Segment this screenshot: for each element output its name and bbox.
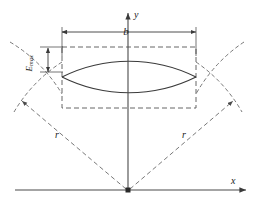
arc-continuation-left-lower [14,62,62,112]
upper-arc [62,61,196,77]
label-axis-x: x [231,176,235,186]
extended-arc-right [196,42,244,94]
arc-continuation-right-lower [196,62,242,112]
lower-arc [62,77,196,93]
dimension-emax [40,47,63,72]
origin-vertex [126,188,131,193]
radial-line-left [22,101,126,189]
label-width-b: b [123,26,129,37]
label-axis-y: y [134,10,138,20]
label-sagitta-base: E [24,66,34,72]
label-radius-right: r [182,130,186,140]
label-sagitta-emax: Emax [25,55,35,71]
label-radius-left: r [55,130,59,140]
lens-shape [62,61,196,93]
extended-arc-left [10,42,62,94]
bounding-rectangle [62,47,196,108]
label-sagitta-subscript: max [27,55,34,66]
radial-line-right [130,101,233,189]
diagram-canvas: b y x r r Emax [0,0,254,205]
